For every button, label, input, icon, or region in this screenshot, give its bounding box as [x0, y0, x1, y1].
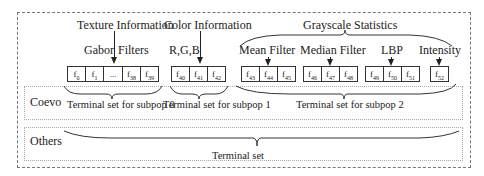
- brace-overlay: [0, 0, 484, 176]
